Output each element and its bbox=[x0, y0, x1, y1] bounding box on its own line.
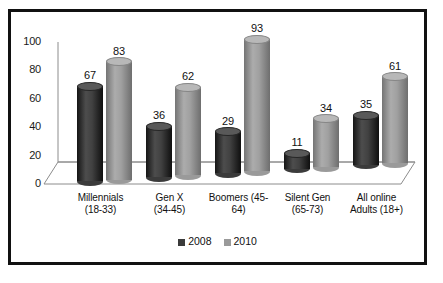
cylinder-body bbox=[313, 119, 339, 167]
cylinder-cap bbox=[353, 111, 379, 120]
y-axis-tick: 100 bbox=[15, 35, 41, 47]
bar-value-label: 83 bbox=[106, 45, 132, 57]
cylinder-body bbox=[353, 115, 379, 165]
bar-cylinder bbox=[106, 62, 132, 180]
legend-item[interactable]: 2008 bbox=[178, 235, 211, 247]
legend-swatch-icon bbox=[224, 239, 231, 246]
bar-cylinder bbox=[382, 77, 408, 164]
y-axis-tick: 60 bbox=[15, 92, 41, 104]
y-axis-tick: 80 bbox=[15, 63, 41, 75]
cylinder-body bbox=[175, 87, 201, 175]
cylinder-cap bbox=[382, 72, 408, 81]
bar-value-label: 36 bbox=[146, 109, 172, 121]
cylinder-body bbox=[215, 132, 241, 173]
chart-frame: 020406080100 67833662299311343561 Millen… bbox=[8, 9, 427, 265]
cylinder-body bbox=[146, 126, 172, 177]
chart-plot-area: 020406080100 67833662299311343561 Millen… bbox=[11, 12, 424, 262]
y-axis-tick: 0 bbox=[15, 177, 41, 189]
category-label-line: Adults (18+) bbox=[334, 204, 420, 216]
legend-item[interactable]: 2010 bbox=[224, 235, 257, 247]
category-label-line: All online bbox=[334, 192, 420, 204]
chart-legend: 20082010 bbox=[11, 234, 424, 247]
bar-cylinder bbox=[313, 119, 339, 167]
bar-value-label: 61 bbox=[382, 60, 408, 72]
bar-value-label: 62 bbox=[175, 70, 201, 82]
cylinder-body bbox=[382, 77, 408, 164]
bar-cylinder bbox=[146, 126, 172, 177]
bar-value-label: 29 bbox=[215, 115, 241, 127]
bar-cylinder bbox=[175, 87, 201, 175]
bar-cylinder bbox=[244, 39, 270, 171]
cylinder-cap bbox=[244, 35, 270, 44]
bar-cylinder bbox=[284, 153, 310, 169]
bar-cylinder bbox=[353, 115, 379, 165]
bar-value-label: 34 bbox=[313, 102, 339, 114]
bar-cylinder bbox=[77, 86, 103, 181]
cylinder-cap bbox=[146, 122, 172, 131]
bar-value-label: 11 bbox=[284, 136, 310, 148]
y-axis-tick: 20 bbox=[15, 149, 41, 161]
legend-label: 2010 bbox=[234, 235, 257, 247]
cylinder-cap bbox=[77, 82, 103, 91]
cylinder-cap bbox=[175, 83, 201, 92]
legend-swatch-icon bbox=[178, 239, 185, 246]
bar-value-label: 35 bbox=[353, 98, 379, 110]
cylinder-cap bbox=[284, 149, 310, 158]
cylinder-body bbox=[106, 62, 132, 180]
bar-value-label: 67 bbox=[77, 69, 103, 81]
y-axis-tick: 40 bbox=[15, 120, 41, 132]
legend-label: 2008 bbox=[188, 235, 211, 247]
cylinder-body bbox=[77, 86, 103, 181]
cylinder-body bbox=[244, 39, 270, 171]
category-label: All onlineAdults (18+) bbox=[334, 192, 420, 216]
bar-value-label: 93 bbox=[244, 22, 270, 34]
bar-cylinder bbox=[215, 132, 241, 173]
